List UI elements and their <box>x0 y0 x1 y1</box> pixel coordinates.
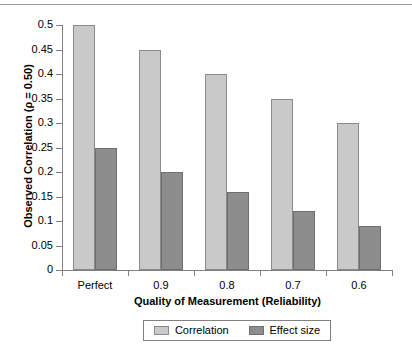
x-axis-tick-label: 0.9 <box>128 279 194 291</box>
x-axis-title: Quality of Measurement (Reliability) <box>62 295 393 307</box>
chart-legend: CorrelationEffect size <box>143 320 331 341</box>
bar-correlation-perfect <box>73 25 95 270</box>
x-axis-tick-label: 0.8 <box>194 279 260 291</box>
bar-effect-size-perfect <box>95 148 117 271</box>
x-axis-tick <box>128 271 129 276</box>
bar-correlation-0.7 <box>271 99 293 271</box>
y-axis-tick-label: 0.2 <box>38 166 53 177</box>
y-axis-tick-label: 0.45 <box>32 44 53 55</box>
bar-effect-size-0.8 <box>227 192 249 270</box>
y-axis-tick-label: 0 <box>47 264 53 275</box>
x-axis-tick-label: 0.7 <box>260 279 326 291</box>
y-axis-tick-label: 0.35 <box>32 93 53 104</box>
legend-entry-effect-size[interactable]: Effect size <box>249 325 321 336</box>
y-axis-tick-label: 0.3 <box>38 117 53 128</box>
bar-correlation-0.6 <box>337 123 359 270</box>
legend-entry-correlation[interactable]: Correlation <box>154 325 229 336</box>
x-axis-tick <box>62 271 63 276</box>
x-axis-tick-label: Perfect <box>62 279 128 291</box>
y-axis-tick-label: 0.25 <box>32 142 53 153</box>
x-axis-line <box>62 270 393 271</box>
legend-label: Effect size <box>270 325 321 336</box>
y-axis-tick-label: 0.1 <box>38 215 53 226</box>
bar-effect-size-0.9 <box>161 172 183 270</box>
legend-swatch-icon <box>154 326 169 335</box>
x-axis-tick <box>392 271 393 276</box>
bar-correlation-0.9 <box>139 50 161 271</box>
x-axis-tick-label: 0.6 <box>326 279 392 291</box>
plot-area <box>62 25 392 270</box>
legend-swatch-icon <box>249 326 264 335</box>
y-axis-tick-label: 0.15 <box>32 191 53 202</box>
y-axis-tick-label: 0.5 <box>38 19 53 30</box>
x-axis-tick <box>326 271 327 276</box>
x-axis-tick <box>194 271 195 276</box>
y-axis-tick-label: 0.4 <box>38 68 53 79</box>
x-axis-tick <box>260 271 261 276</box>
bar-effect-size-0.7 <box>293 211 315 270</box>
bar-effect-size-0.6 <box>359 226 381 270</box>
y-axis-tick-label: 0.05 <box>32 240 53 251</box>
legend-label: Correlation <box>175 325 229 336</box>
bar-chart: Observed Correlation (ρ = 0.50) 00.050.1… <box>0 0 412 345</box>
bar-correlation-0.8 <box>205 74 227 270</box>
